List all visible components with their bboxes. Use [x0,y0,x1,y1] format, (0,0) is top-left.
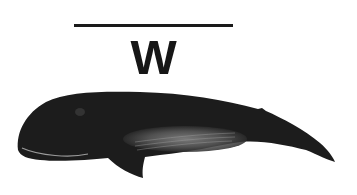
letter-heading: W [0,33,307,82]
whale-belly-shading [123,126,247,152]
whale-illustration [0,80,357,195]
whale-eye [75,108,85,116]
divider-rule [74,24,233,27]
